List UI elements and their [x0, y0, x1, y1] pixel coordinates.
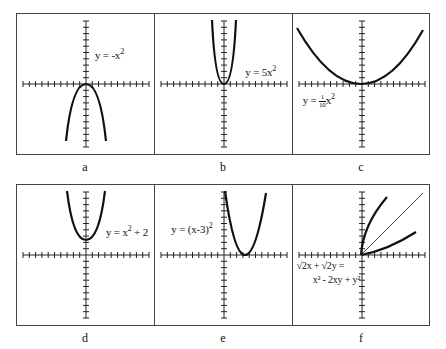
caption-a: a — [16, 160, 154, 175]
graph-d — [17, 185, 155, 325]
equation-e: y = (x-3)2 — [171, 221, 212, 235]
graph-e — [155, 185, 293, 325]
bottom-row: y = x2 + 2 y = (x-3)2 √2x + √2y = x² - 2… — [16, 184, 430, 326]
graph-f — [293, 185, 429, 325]
top-row: y = -x2 y = 5x2 y = 110x2 — [16, 13, 430, 155]
equation-f-line2: x² - 2xy + y² — [313, 274, 360, 285]
panel-f: √2x + √2y = x² - 2xy + y² — [292, 185, 429, 325]
caption-f: f — [292, 331, 430, 346]
graph-a — [17, 14, 155, 154]
equation-d: y = x2 + 2 — [106, 224, 148, 238]
equation-c: y = 110x2 — [303, 92, 335, 109]
caption-b: b — [154, 160, 292, 175]
graph-c — [293, 14, 429, 154]
panel-a: y = -x2 — [17, 14, 154, 154]
equation-b: y = 5x2 — [245, 64, 276, 78]
caption-c: c — [292, 160, 430, 175]
caption-d: d — [16, 331, 154, 346]
panel-b: y = 5x2 — [154, 14, 291, 154]
equation-f-line1: √2x + √2y = — [297, 260, 345, 271]
panel-c: y = 110x2 — [292, 14, 429, 154]
graph-b — [155, 14, 293, 154]
panel-d: y = x2 + 2 — [17, 185, 154, 325]
caption-e: e — [154, 331, 292, 346]
panel-e: y = (x-3)2 — [154, 185, 291, 325]
equation-a: y = -x2 — [95, 47, 124, 61]
